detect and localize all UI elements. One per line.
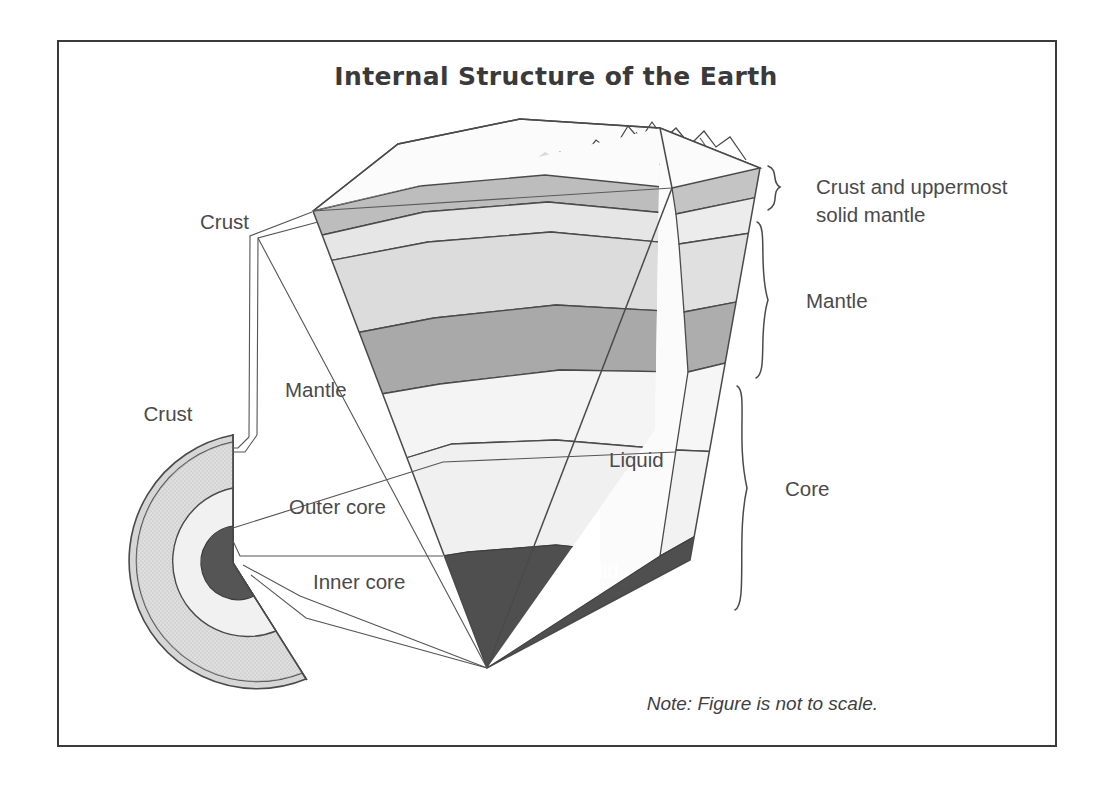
label-crust-wedge: Crust — [200, 210, 249, 233]
bracket-core-label: Core — [785, 477, 829, 500]
side-mantle-dark-band — [684, 300, 747, 372]
label-inner-core: Inner core — [313, 570, 405, 593]
leader-crust-globe-b — [233, 435, 257, 452]
page-title: Internal Structure of the Earth — [334, 62, 778, 91]
bracket-core: Core — [735, 386, 829, 610]
globe-cutaway — [129, 434, 307, 689]
figure-note: Note: Figure is not to scale. — [647, 693, 878, 714]
label-liquid: Liquid — [609, 448, 664, 471]
bracket-mantle: Mantle — [756, 222, 868, 378]
leader-crust-globe-a — [233, 437, 249, 448]
side-upper-mantle — [679, 232, 757, 312]
bracket-lithosphere-line1: Crust and uppermost — [816, 175, 1008, 198]
bracket-mantle-label: Mantle — [806, 289, 868, 312]
label-solid: Solid — [573, 559, 619, 582]
label-crust-globe: Crust — [144, 402, 193, 425]
label-outer-core: Outer core — [289, 495, 386, 518]
earth-structure-diagram: Internal Structure of the Earth — [0, 0, 1112, 791]
label-mantle-wedge: Mantle — [285, 378, 347, 401]
bracket-lithosphere-line2: solid mantle — [816, 203, 925, 226]
bracket-lithosphere: Crust and uppermost solid mantle — [768, 166, 1008, 226]
leader-outer-core-lower — [233, 541, 443, 556]
